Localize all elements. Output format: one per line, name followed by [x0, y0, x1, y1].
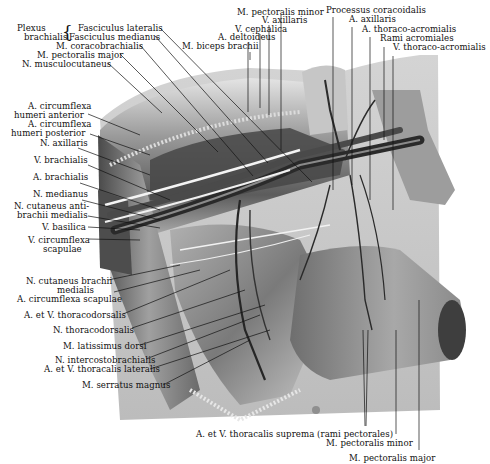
label-m-serratus-magnus: M. serratus magnus — [82, 381, 170, 390]
label-a-et-v-thoracodorsalis: A. et V. thoracodorsalis — [24, 311, 126, 320]
axilla-illustration — [0, 0, 490, 464]
label-v-circumflexa-scapulae-2: scapulae — [43, 245, 82, 254]
label-a-et-v-thoracalis-lateralis: A. et V. thoracalis lateralis — [44, 365, 160, 374]
label-v-brachialis: V. brachialis — [34, 156, 88, 165]
label-a-axillaris: A. axillaris — [349, 15, 396, 24]
label-a-brachialis: A. brachialis — [33, 173, 88, 182]
processus-coracoidalis — [302, 65, 348, 135]
pectoralis-major-cut-end — [438, 300, 466, 360]
label-m-latissimus-dorsi: M. latissimus dorsi — [63, 342, 147, 351]
label-v-basilica: V. basilica — [42, 223, 86, 232]
label-v-thoraco-acromialis: V. thoraco-acromialis — [393, 43, 486, 52]
label-n-axillaris: N. axillaris — [40, 139, 88, 148]
label-a-circumflexa-scapulae: A. circumflexa scapulae — [17, 295, 122, 304]
label-m-biceps-brachii: M. biceps brachii — [182, 42, 258, 51]
label-m-pectoralis-minor-bottom: M. pectoralis minor — [326, 439, 413, 448]
label-n-medianus: N. medianus — [33, 190, 88, 199]
anatomical-figure: Plexus brachialis { Fasciculus lateralis… — [0, 0, 490, 464]
label-n-thoracodorsalis: N. thoracodorsalis — [53, 326, 134, 335]
label-n-musculocutaneus: N. musculocutaneus — [22, 60, 111, 69]
nipple — [312, 406, 320, 414]
label-a-circumflexa-humeri-posterior-2: humeri posterior — [11, 129, 85, 138]
label-n-cutaneus-antibrachii-medialis-2: brachii medialis — [17, 211, 88, 220]
label-m-pectoralis-major-bottom: M. pectoralis major — [349, 454, 435, 463]
